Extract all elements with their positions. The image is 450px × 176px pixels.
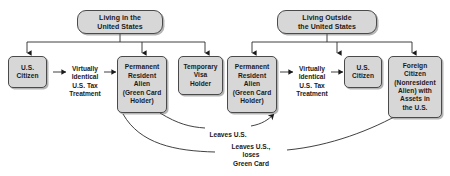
node-us-citizen-left[interactable]: U.S. Citizen — [8, 56, 47, 88]
node-foreign-citizen-nonresident-alien[interactable]: Foreign Citizen (Nonresident Alien) with… — [388, 56, 442, 118]
node-us-citizen-right[interactable]: U.S. Citizen — [344, 56, 382, 88]
edge-label-virtually-identical-right: Virtually Identical U.S. Tax Treatment — [284, 56, 340, 99]
tax-residency-flow-diagram: Living in the United States Living Outsi… — [0, 0, 450, 176]
node-temporary-visa-holder-label: Temporary Visa Holder — [180, 63, 221, 88]
node-foreign-citizen-nonresident-alien-label: Foreign Citizen (Nonresident Alien) with… — [390, 62, 440, 112]
edge-label-virtually-identical-right-text: Virtually Identical U.S. Tax Treatment — [296, 65, 328, 98]
header-living-in-united-states-label: Living in the United States — [79, 13, 161, 31]
header-living-outside-united-states-label: Living Outside the United States — [279, 13, 375, 31]
edge-label-virtually-identical-left: Virtually Identical U.S. Tax Treatment — [57, 56, 113, 99]
node-temporary-visa-holder[interactable]: Temporary Visa Holder — [178, 56, 223, 95]
edge-label-leaves-us-loses-green-card-text: Leaves U.S., loses Green Card — [232, 143, 271, 167]
node-permanent-resident-alien-left-label: Permanent Resident Alien (Green Card Hol… — [119, 63, 165, 105]
node-permanent-resident-alien-right-label: Permanent Resident Alien (Green Card Hol… — [229, 63, 275, 105]
edge-label-leaves-us-loses-green-card: Leaves U.S., loses Green Card — [214, 134, 288, 168]
node-permanent-resident-alien-right[interactable]: Permanent Resident Alien (Green Card Hol… — [227, 56, 277, 113]
node-us-citizen-left-label: U.S. Citizen — [10, 64, 45, 81]
node-us-citizen-right-label: U.S. Citizen — [346, 64, 380, 81]
header-living-outside-united-states[interactable]: Living Outside the United States — [277, 10, 377, 34]
node-permanent-resident-alien-left[interactable]: Permanent Resident Alien (Green Card Hol… — [117, 56, 167, 113]
edge-label-virtually-identical-left-text: Virtually Identical U.S. Tax Treatment — [69, 65, 101, 98]
header-living-in-united-states[interactable]: Living in the United States — [77, 10, 163, 34]
